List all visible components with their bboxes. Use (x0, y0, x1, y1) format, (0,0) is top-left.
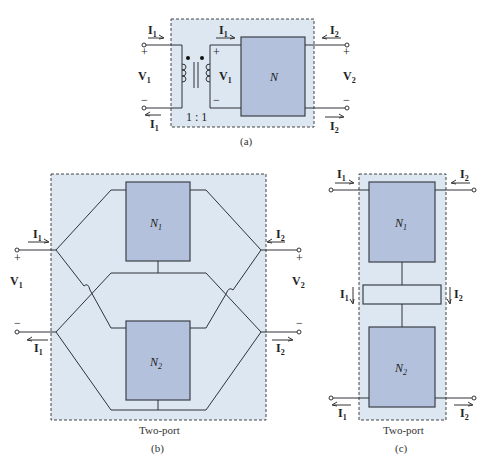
svg-text:I1: I1 (340, 287, 349, 303)
svg-text:I2: I2 (454, 287, 463, 303)
figure-c-caption: (c) (395, 442, 408, 455)
svg-text:+: + (296, 251, 303, 265)
arrow-left-icon (145, 112, 161, 116)
arrow-down-icon (350, 287, 354, 304)
dot-marker-icon (186, 56, 190, 60)
svg-text:−: − (141, 93, 148, 107)
svg-text:−: − (14, 316, 21, 330)
svg-text:I1: I1 (148, 23, 157, 39)
figure-a: N I1 + V1 − I1 (138, 19, 356, 148)
svg-text:I2: I2 (330, 119, 339, 135)
svg-text:I1: I1 (150, 117, 159, 133)
series-connector-box (363, 285, 441, 304)
svg-text:I2: I2 (276, 227, 285, 243)
svg-text:I1: I1 (33, 227, 42, 243)
svg-text:V2: V2 (343, 69, 356, 85)
port2-minus-terminal (297, 330, 301, 334)
svg-text:I1: I1 (338, 406, 347, 422)
figure-c-box-label: Two-port (383, 424, 424, 436)
port2-bottom-terminal (472, 396, 476, 400)
svg-text:+: + (343, 45, 350, 59)
figure-b: N1 N2 I1 + V1 − I1 (10, 174, 305, 455)
arrow-right-icon (325, 114, 344, 118)
turns-ratio: 1 : 1 (186, 110, 207, 124)
figure-a-caption: (a) (240, 135, 253, 148)
port2-top-terminal (472, 188, 476, 192)
svg-text:I2: I2 (460, 406, 469, 422)
two-port-diagram: N I1 + V1 − I1 (0, 0, 493, 463)
figure-b-box-label: Two-port (139, 424, 180, 436)
svg-text:V1: V1 (138, 69, 151, 85)
svg-text:−: − (296, 316, 303, 330)
svg-text:I1: I1 (337, 167, 346, 183)
svg-text:V1: V1 (10, 274, 23, 290)
port1-minus-terminal (15, 330, 19, 334)
port1-bottom-terminal (329, 396, 333, 400)
svg-text:I2: I2 (330, 23, 339, 39)
svg-text:+: + (213, 45, 220, 59)
svg-text:−: − (343, 93, 350, 107)
figure-b-caption: (b) (151, 442, 164, 455)
network-n-label: N (269, 70, 279, 84)
svg-text:+: + (141, 45, 148, 59)
svg-text:I1: I1 (34, 341, 43, 357)
svg-text:−: − (213, 93, 220, 107)
arrow-down-icon (447, 287, 451, 304)
figure-c: N1 N2 I1 I2 I1 I2 I1 I2 Two-port (c) (329, 167, 476, 455)
svg-text:+: + (14, 251, 21, 265)
svg-text:I2: I2 (460, 167, 469, 183)
svg-text:I2: I2 (276, 341, 285, 357)
svg-text:V2: V2 (292, 274, 305, 290)
dot-marker-icon (200, 56, 204, 60)
port1-top-terminal (329, 188, 333, 192)
